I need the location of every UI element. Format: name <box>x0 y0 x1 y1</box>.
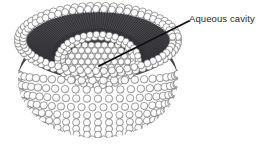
aqueous-cavity-label: Aqueous cavity <box>189 13 255 24</box>
liposome-diagram: Aqueous cavity <box>0 0 270 147</box>
